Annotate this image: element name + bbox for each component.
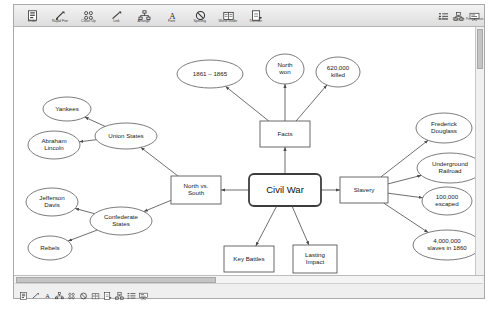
toolbar-button-label: Link bbox=[113, 19, 119, 23]
toolbar-button-transfer[interactable]: Transfer bbox=[242, 6, 270, 22]
font-icon: A bbox=[166, 7, 179, 18]
node-slavery[interactable]: Slavery bbox=[340, 177, 388, 203]
toolbar-button-label: Arrange bbox=[138, 19, 150, 23]
edge-facts-to-years bbox=[226, 86, 269, 121]
diagram-icon bbox=[453, 7, 464, 16]
node-label: Slavery bbox=[354, 186, 376, 193]
node-lasting[interactable]: LastingImpact bbox=[293, 245, 337, 273]
edge-facts-to-killed bbox=[296, 85, 327, 121]
svg-text:A: A bbox=[45, 292, 50, 299]
view-button-diagram[interactable]: Diagram bbox=[453, 7, 464, 20]
node-davis[interactable]: JeffersonDavis bbox=[26, 188, 78, 216]
view-button-label: Presentation bbox=[466, 17, 483, 21]
toolbar-button-word-guide[interactable]: Word Guide bbox=[214, 6, 242, 22]
main-toolbar: OrderRapid FireClean UpLinkArrangeAFontS… bbox=[14, 5, 484, 27]
vertical-scrollbar[interactable] bbox=[475, 27, 484, 277]
toolbar-button-clean-up[interactable]: Clean Up bbox=[74, 6, 102, 22]
node-slaves1860[interactable]: 4,000,000slaves in 1860 bbox=[413, 230, 476, 260]
node-escaped[interactable]: 100,000escaped bbox=[422, 187, 472, 215]
node-killed[interactable]: 620,000killed bbox=[316, 57, 360, 87]
node-label: States bbox=[112, 220, 130, 227]
node-yankees[interactable]: Yankees bbox=[43, 97, 91, 121]
app-root: OrderRapid FireClean UpLinkArrangeAFontS… bbox=[0, 0, 500, 313]
edge-confederate-to-davis bbox=[75, 208, 94, 213]
link-icon bbox=[110, 7, 123, 18]
toolbar-button-spelling[interactable]: Spelling bbox=[186, 6, 214, 22]
edge-confederate-to-rebels bbox=[68, 230, 97, 241]
node-civil-war[interactable]: Civil War bbox=[249, 174, 321, 206]
bottom-link-icon[interactable] bbox=[31, 286, 40, 295]
bottom-spelling-icon[interactable] bbox=[79, 286, 88, 295]
order-icon bbox=[19, 292, 28, 300]
horizontal-scrollbar[interactable] bbox=[15, 276, 483, 284]
bottom-transfer-icon[interactable] bbox=[103, 286, 112, 295]
node-union[interactable]: Union States bbox=[95, 123, 157, 149]
node-label: Key Battles bbox=[233, 255, 264, 262]
node-label: 4,000,000 bbox=[433, 237, 461, 244]
toolbar-button-group: OrderRapid FireClean UpLinkArrangeAFontS… bbox=[18, 6, 270, 22]
node-label: Davis bbox=[44, 201, 59, 208]
bottom-diagram-icon[interactable] bbox=[115, 286, 124, 295]
vertical-scrollbar-thumb[interactable] bbox=[477, 29, 483, 69]
node-label: North bbox=[277, 61, 293, 68]
concept-map[interactable]: Civil WarFactsSlaveryNorth vs.SouthKey B… bbox=[15, 27, 476, 277]
view-button-presentation[interactable]: Presentation bbox=[468, 7, 481, 20]
arrange-icon bbox=[55, 292, 64, 300]
view-button-outline[interactable]: Outline bbox=[438, 7, 449, 20]
node-label: Abraham bbox=[41, 137, 66, 144]
spelling-icon bbox=[194, 7, 207, 18]
node-rebels[interactable]: Rebels bbox=[28, 236, 72, 260]
toolbar-button-label: Clean Up bbox=[81, 19, 96, 23]
transfer-icon bbox=[103, 292, 112, 300]
outline-icon bbox=[438, 7, 449, 16]
edge-union-to-yankees bbox=[85, 117, 105, 126]
toolbar-button-arrange[interactable]: Arrange bbox=[130, 6, 158, 22]
horizontal-scrollbar-thumb[interactable] bbox=[16, 277, 216, 283]
node-label: Yankees bbox=[55, 105, 79, 112]
toolbar-button-font[interactable]: AFont bbox=[158, 6, 186, 22]
toolbar-button-link[interactable]: Link bbox=[102, 6, 130, 22]
node-label: 620,000 bbox=[327, 64, 350, 71]
bottom-icon-row[interactable]: A bbox=[19, 286, 148, 295]
toolbar-button-label: Rapid Fire bbox=[52, 19, 68, 23]
node-label: Jefferson bbox=[39, 194, 65, 201]
cleanup-icon bbox=[67, 292, 76, 300]
wordguide-icon bbox=[91, 292, 100, 300]
node-confederate[interactable]: ConfederateStates bbox=[90, 207, 152, 235]
bottom-order-icon[interactable] bbox=[19, 286, 28, 295]
edge-union-to-lincoln bbox=[79, 140, 96, 142]
node-label: Rebels bbox=[40, 244, 59, 251]
node-label: escaped bbox=[435, 200, 459, 207]
node-facts[interactable]: Facts bbox=[260, 121, 310, 147]
node-years[interactable]: 1861 – 1865 bbox=[177, 60, 243, 88]
bottom-outline-icon[interactable] bbox=[127, 286, 136, 295]
node-label: Impact bbox=[306, 258, 325, 265]
bottom-wordguide-icon[interactable] bbox=[91, 286, 100, 295]
node-lincoln[interactable]: AbrahamLincoln bbox=[28, 131, 80, 159]
outline-icon bbox=[127, 292, 136, 300]
node-north-won[interactable]: Northwon bbox=[266, 54, 304, 84]
bottom-arrange-icon[interactable] bbox=[55, 286, 64, 295]
node-douglass[interactable]: FrederickDouglass bbox=[416, 113, 472, 143]
bottom-presentation-icon[interactable] bbox=[139, 286, 148, 295]
bottom-font-icon[interactable]: A bbox=[43, 286, 52, 295]
node-key-battles[interactable]: Key Battles bbox=[224, 246, 274, 272]
wordguide-icon bbox=[222, 7, 235, 18]
edge-slavery-to-railroad bbox=[388, 175, 421, 184]
node-label: Lasting bbox=[305, 251, 326, 258]
toolbar-button-rapid-fire[interactable]: Rapid Fire bbox=[46, 6, 74, 22]
view-button-label: Outline bbox=[438, 17, 448, 21]
node-railroad[interactable]: UndergroundRailroad bbox=[417, 153, 476, 183]
node-north-south[interactable]: North vs.South bbox=[171, 176, 221, 204]
transfer-icon bbox=[250, 7, 263, 18]
font-icon: A bbox=[43, 292, 52, 300]
diagram-canvas[interactable]: Civil WarFactsSlaveryNorth vs.SouthKey B… bbox=[15, 27, 476, 277]
presentation-icon bbox=[139, 292, 148, 300]
node-label: Union States bbox=[108, 132, 143, 139]
node-label: Confederate bbox=[104, 213, 139, 220]
edge-slavery-to-slaves1860 bbox=[384, 203, 429, 233]
toolbar-button-label: Font bbox=[168, 19, 175, 23]
application-window: OrderRapid FireClean UpLinkArrangeAFontS… bbox=[13, 4, 485, 299]
toolbar-button-order[interactable]: Order bbox=[18, 6, 46, 22]
bottom-cleanup-icon[interactable] bbox=[67, 286, 76, 295]
